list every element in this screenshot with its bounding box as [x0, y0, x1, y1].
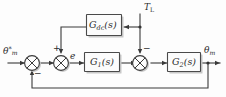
wire-sum2-to-g1: [69, 61, 84, 65]
error-base: e: [70, 51, 75, 61]
diagram-canvas: [0, 0, 226, 97]
label-output: θm: [204, 46, 215, 56]
load-torque-subscript: L: [150, 6, 154, 13]
summing-junction-2[interactable]: [54, 56, 70, 72]
sign-sum1-minus: −: [34, 69, 42, 78]
g2-base: G: [172, 56, 180, 67]
gdc-tail: (s): [104, 19, 116, 30]
wire-torque-to-gdc: [124, 25, 140, 29]
wire-reference-input: [8, 61, 25, 65]
sign-sum2-plus: +: [53, 44, 61, 53]
label-block-g2: G2(s): [172, 57, 196, 68]
g2-tail: (s): [184, 56, 196, 67]
label-block-g1: G1(s): [90, 57, 114, 68]
label-block-gdc: Gdc(s): [89, 20, 117, 31]
wire-load-torque-input: [138, 14, 141, 29]
block-diagram: θ*m e TL θm Gdc(s) G1(s) G2(s) − + −: [0, 0, 226, 97]
output-subscript: m: [209, 49, 215, 56]
wire-gdc-to-sum2: [59, 27, 86, 54]
wire-torque-to-sum3: [138, 27, 142, 54]
wire-sum3-to-g2: [151, 61, 167, 65]
reference-subscript: m: [12, 49, 18, 56]
g1-tail: (s): [102, 56, 114, 67]
wire-sum1-to-sum2: [40, 61, 54, 65]
label-error-signal: e: [70, 52, 75, 61]
label-load-torque: TL: [144, 3, 154, 13]
summing-junction-3[interactable]: [133, 56, 149, 72]
sign-sum3-minus: −: [143, 44, 151, 53]
label-reference-input: θ*m: [3, 46, 17, 57]
gdc-base: G: [89, 19, 97, 30]
wire-g2-to-output: [200, 61, 220, 65]
g1-base: G: [90, 56, 98, 67]
